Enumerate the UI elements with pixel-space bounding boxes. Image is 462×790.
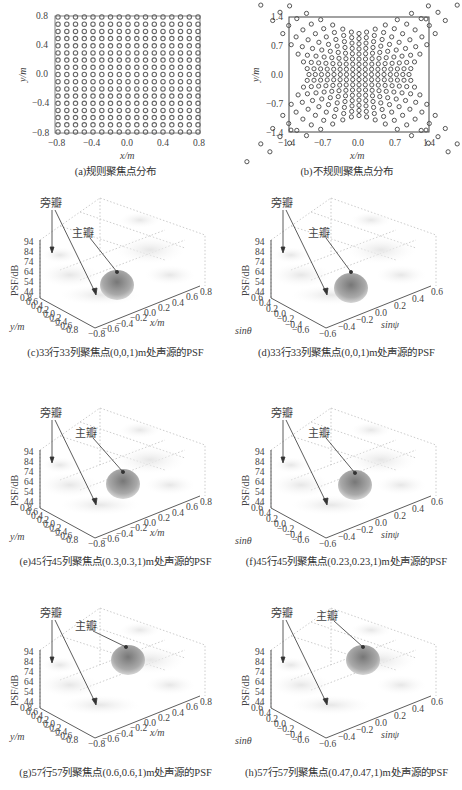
focus-point [343,94,347,98]
focus-point [161,101,165,105]
focus-point [436,135,440,139]
focus-point [387,103,391,107]
y-tick: −0.6 [292,536,309,546]
focus-point [288,4,292,8]
focus-point [56,58,60,62]
focus-point [357,103,361,107]
focus-point [82,51,86,55]
focus-point [357,78,361,82]
focus-point [91,123,95,127]
focus-point [372,33,376,37]
focus-point [330,89,334,93]
focus-point [108,87,112,91]
focus-point [196,123,200,127]
focus-point [117,36,121,40]
focus-point [143,115,147,119]
focus-point [382,114,386,118]
focus-point [100,130,104,134]
focus-point [387,42,391,46]
focus-point [126,123,130,127]
focus-point [370,94,374,98]
y-tick: 0.0 [271,71,283,81]
focus-point [337,89,341,93]
y-tick: −0.8 [61,736,78,746]
focus-point [309,60,313,64]
x-axis-label: sinψ [381,320,399,330]
focus-point [326,42,330,46]
focus-point [350,109,354,113]
focus-point [342,105,346,109]
focus-point [178,101,182,105]
main-lobe [111,645,145,675]
focus-point [108,101,112,105]
focus-point [73,101,77,105]
x-axis-label: x/m [150,528,164,538]
focus-point [91,44,95,48]
x-tick: −1.4 [278,139,295,149]
focus-point [310,46,314,50]
x-tick: 0.4 [412,705,424,715]
focus-point [325,67,329,71]
focus-point [126,72,130,76]
focus-point [397,61,401,65]
focus-point [397,40,401,44]
focus-point [196,58,200,62]
focus-point [332,30,336,34]
focus-point [357,42,361,46]
focus-point [178,44,182,48]
focus-point [409,11,413,15]
focus-point [170,130,174,134]
focus-point [126,101,130,105]
focus-point [73,72,77,76]
x-tick: −0.4 [338,733,355,743]
focus-point [178,51,182,55]
y-tick: −0.6 [292,736,309,746]
focus-point [161,130,165,134]
focus-point [357,113,361,117]
focus-point [65,94,69,98]
focus-point [178,36,182,40]
focus-point [73,80,77,84]
focus-point [196,94,200,98]
focus-point [313,113,317,117]
focus-point [108,58,112,62]
focus-point [135,101,139,105]
focus-point [392,55,396,59]
focus-point [409,53,413,57]
focus-point [170,94,174,98]
focus-point [135,108,139,112]
focus-point [383,23,387,27]
y-axis-label: y/m [10,532,24,542]
focus-point [357,67,361,71]
focus-point [401,113,405,117]
x-axis-label: sinψ [381,530,399,540]
focus-point [117,108,121,112]
focus-point [350,52,354,56]
focus-point [357,52,361,56]
focus-point [357,72,361,76]
focus-point [405,22,409,26]
focus-point [402,67,406,71]
focus-point [152,80,156,84]
focus-point [364,46,368,50]
focus-point [196,87,200,91]
focus-point [424,128,428,132]
y-tick: 0.4 [36,41,48,51]
focus-point [108,15,112,19]
focus-point [187,22,191,26]
focus-point [344,72,348,76]
focus-point [170,15,174,19]
focus-point [135,123,139,127]
focus-point [100,36,104,40]
focus-point [301,85,305,89]
caption-g: (g)57行57列聚焦点(0.6,0.6,1)m处声源的PSF [0,764,231,779]
focus-point [135,87,139,91]
focus-point [152,65,156,69]
focus-point [170,29,174,33]
focus-point [324,110,328,114]
focus-point [196,101,200,105]
focus-point [187,44,191,48]
focus-point [322,118,326,122]
focus-point [301,117,305,121]
focus-point [400,91,404,95]
